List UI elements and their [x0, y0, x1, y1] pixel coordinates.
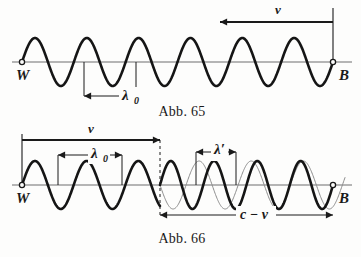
abb-65-lambda0-label: λ: [121, 87, 129, 103]
abb-65-caption: Abb. 65: [158, 104, 205, 119]
abb-66-c-minus-v-arrowhead-left: [160, 211, 167, 218]
abb-65-velocity-label: v: [275, 2, 281, 17]
abb-66-endpoint-label-w: W: [16, 190, 31, 206]
abb-66-lambda-prime-label: λ′: [213, 141, 225, 157]
abb-66-lambda0-label-subscript: 0: [103, 153, 108, 164]
abb-65-endpoint-marker-b: [330, 59, 335, 64]
abb-66-endpoint-label-b: B: [338, 190, 349, 206]
abb-65-lambda0-arrowhead-left: [84, 92, 91, 99]
abb-66-lambda0-label: λ: [90, 145, 98, 161]
abb-66-lambda-prime-arrowhead-right: [229, 148, 236, 155]
abb-66-lambda-prime-arrowhead-left: [196, 148, 203, 155]
abb-66-velocity-arrowhead: [153, 136, 160, 143]
abb-65-endpoint-label-b: B: [338, 67, 349, 83]
abb-66-velocity-label: v: [88, 121, 94, 136]
physics-figure-plate: vλ0WBAbb. 65vλ0λ′c − vWBAbb. 66: [0, 0, 361, 257]
abb-65-velocity-arrowhead: [220, 18, 227, 25]
doppler-wave-figures-svg: vλ0WBAbb. 65vλ0λ′c − vWBAbb. 66: [0, 0, 361, 257]
abb-66-c-minus-v-arrowhead-right: [326, 211, 333, 218]
abb-66-lambda0-arrowhead-right: [115, 151, 122, 158]
abb-65-lambda0-label-subscript: 0: [134, 95, 139, 106]
abb-65-endpoint-marker-w: [19, 59, 24, 64]
abb-66-endpoint-marker-w: [19, 182, 24, 187]
abb-66-c-minus-v-label: c − v: [240, 207, 269, 222]
abb-65-endpoint-label-w: W: [16, 67, 31, 83]
abb-66-caption: Abb. 66: [158, 231, 205, 246]
abb-66-endpoint-marker-b: [330, 182, 335, 187]
abb-66-lambda0-arrowhead-left: [58, 151, 65, 158]
